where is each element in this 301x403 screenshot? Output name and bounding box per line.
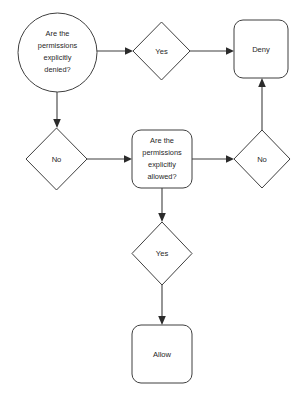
allowed-no-label: No	[257, 155, 267, 164]
node-allowed-yes[interactable]: Yes	[132, 222, 192, 285]
edge-allowed-yes-to-allow	[158, 285, 166, 325]
node-allowed-no[interactable]: No	[234, 130, 290, 188]
edge-allowed-question-to-allowed-yes	[158, 188, 166, 222]
allowed-yes-label: Yes	[156, 249, 169, 258]
node-start-question[interactable]: Are the permissions explicitly denied?	[18, 13, 97, 92]
allowed-question-label-line-1: Are the	[150, 136, 174, 145]
allowed-question-label-line-3: explicitly	[148, 160, 176, 169]
node-allow-terminal[interactable]: Allow	[132, 325, 192, 383]
start-question-label-line-4: denied?	[44, 65, 70, 74]
edge-allowed-no-to-deny	[258, 78, 266, 130]
edge-allowed-question-to-allowed-no	[192, 155, 234, 163]
deny-terminal-label: Deny	[252, 45, 270, 54]
flowchart-canvas: Are the permissions explicitly denied? Y…	[0, 0, 301, 403]
allowed-question-label-line-4: allowed?	[147, 172, 176, 181]
denied-yes-label: Yes	[155, 47, 168, 56]
node-deny-terminal[interactable]: Deny	[234, 20, 288, 78]
edge-denied-no-to-allowed-question	[87, 155, 132, 163]
start-question-label-line-3: explicitly	[44, 53, 72, 62]
start-question-label-line-1: Are the	[46, 29, 70, 38]
node-allowed-question[interactable]: Are the permissions explicitly allowed?	[132, 130, 192, 188]
edge-start-to-denied-no	[53, 92, 61, 128]
flowchart-diagram: Are the permissions explicitly denied? Y…	[0, 0, 301, 403]
allowed-question-label-line-2: permissions	[142, 148, 182, 157]
node-denied-no[interactable]: No	[26, 128, 87, 190]
edge-denied-yes-to-deny	[190, 47, 234, 55]
start-question-label-line-2: permissions	[38, 41, 78, 50]
denied-no-label: No	[52, 155, 62, 164]
node-denied-yes[interactable]: Yes	[133, 22, 190, 80]
edge-start-to-denied-yes	[97, 47, 133, 55]
allow-terminal-label: Allow	[153, 350, 172, 359]
